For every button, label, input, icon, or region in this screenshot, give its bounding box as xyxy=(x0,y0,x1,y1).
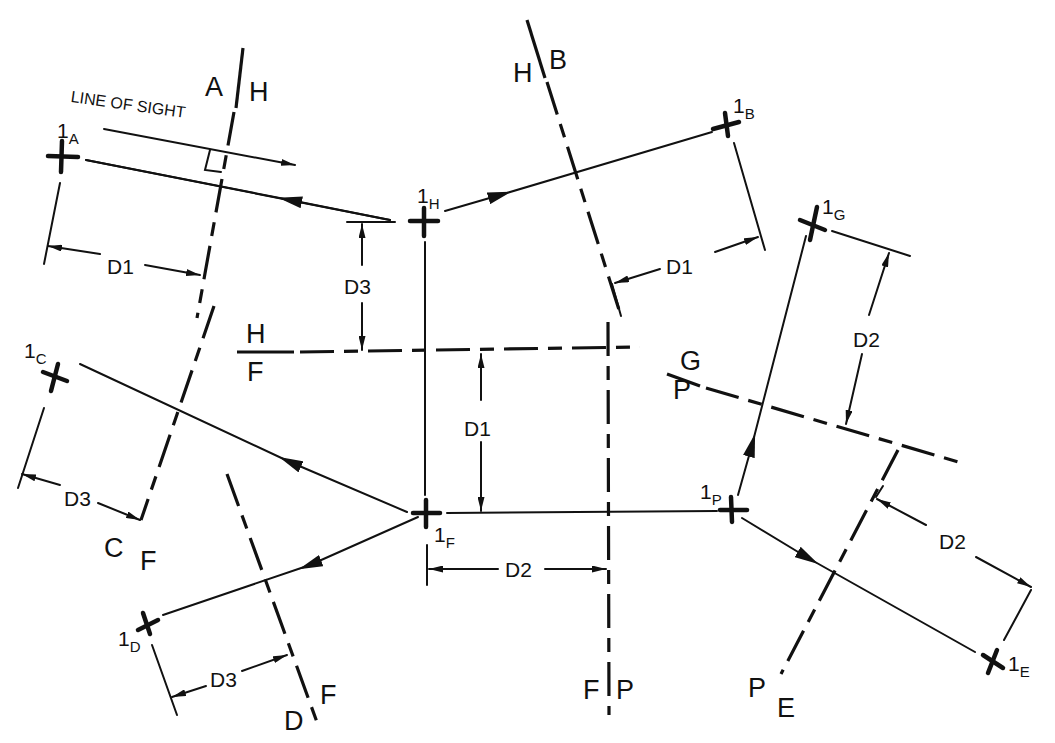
point-crosses xyxy=(43,113,1003,673)
fold-label-a: A xyxy=(205,74,223,101)
fold-line-c-f xyxy=(141,306,214,520)
fold-label-e: E xyxy=(777,695,795,722)
fold-label-b: B xyxy=(549,47,567,74)
fold-label-p: P xyxy=(616,677,634,704)
fold-label-f2: F xyxy=(140,548,157,575)
fold-label-p3: P xyxy=(748,675,766,702)
dimension-label-d2-fp: D2 xyxy=(503,559,534,580)
point-label-1f: 1F xyxy=(434,524,455,550)
point-label-1g: 1G xyxy=(822,196,845,222)
dimension-label-d1-hf: D1 xyxy=(462,418,493,439)
fold-label-f4: F xyxy=(583,677,600,704)
fold-line-f-p xyxy=(608,322,609,715)
fold-label-h2: H xyxy=(513,60,533,87)
line-of-sight-arrow xyxy=(104,129,295,172)
fold-label-p2: P xyxy=(673,377,691,404)
fold-label-f3: F xyxy=(320,682,337,709)
descriptive-geometry-diagram: LINE OF SIGHT A H H B H F C F D F F P G … xyxy=(0,0,1055,743)
fold-line-h-b xyxy=(527,20,621,316)
fold-label-h3: H xyxy=(246,321,266,348)
dimension-label-d2-g: D2 xyxy=(851,329,882,350)
dimension-label-d1-b: D1 xyxy=(664,256,695,277)
fold-line-g-p xyxy=(667,374,962,463)
fold-label-h: H xyxy=(249,79,269,106)
point-label-1d: 1D xyxy=(118,628,141,654)
fold-line-h-f xyxy=(237,347,640,352)
dimension-lines xyxy=(18,143,1031,715)
fold-label-d: D xyxy=(284,708,304,735)
fold-label-f: F xyxy=(247,359,264,386)
point-label-1b: 1B xyxy=(733,95,755,121)
fold-line-p-e xyxy=(781,450,898,674)
dimension-label-d1-a: D1 xyxy=(105,256,136,277)
fold-line-d-f xyxy=(227,474,318,725)
point-label-1c: 1C xyxy=(24,340,47,366)
point-label-1p: 1P xyxy=(700,481,722,507)
dimension-label-d3-d: D3 xyxy=(208,669,239,690)
fold-label-c: C xyxy=(104,535,124,562)
dimension-label-d3-hf: D3 xyxy=(342,276,373,297)
point-label-1a: 1A xyxy=(57,120,79,146)
point-label-1e: 1E xyxy=(1008,653,1030,679)
dimension-label-d2-e: D2 xyxy=(937,531,968,552)
fold-label-g: G xyxy=(680,348,701,375)
point-label-1h: 1H xyxy=(417,185,440,211)
dimension-label-d3-c: D3 xyxy=(62,488,93,509)
